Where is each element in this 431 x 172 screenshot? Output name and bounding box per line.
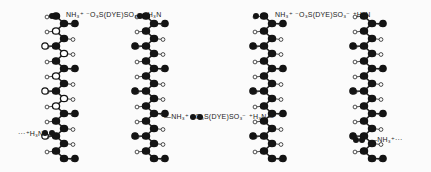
side-atom (280, 155, 286, 161)
side-atom (72, 20, 78, 26)
hydrogen-atom (45, 60, 49, 64)
backbone-atom (368, 65, 375, 71)
backbone-atom (360, 28, 367, 34)
hydrogen-atom (45, 75, 49, 79)
backbone-atom (368, 80, 375, 86)
backbone-atom (142, 28, 149, 34)
side-atom (280, 65, 286, 71)
backbone-atom (150, 95, 157, 101)
side-atom (72, 155, 78, 161)
side-atom (132, 133, 138, 139)
hydrogen-atom (279, 38, 283, 42)
oxygen-atom (42, 43, 48, 49)
backbone-atom (360, 103, 367, 109)
side-atom (162, 20, 168, 26)
polymer-dye-crosslink-diagram: NH₃⁺ ⁻O₃S(DYE)SO₃⁻ ⁺H₃N NH₃⁺ ⁻O₃S(DYE)SO… (0, 0, 431, 172)
backbone-atom (150, 125, 157, 131)
backbone-atom (368, 20, 375, 26)
hydrogen-atom (161, 143, 165, 147)
hydrogen-atom (253, 105, 257, 109)
hydrogen-atom (253, 30, 257, 34)
hydrogen-atom (379, 38, 383, 42)
side-atom (380, 20, 386, 26)
side-atom (380, 155, 386, 161)
backbone-atom (142, 73, 149, 79)
backbone-atom (60, 35, 67, 41)
backbone-atom (150, 50, 157, 56)
backbone-atom (60, 125, 67, 131)
hydrogen-atom (279, 98, 283, 102)
backbone-atom (268, 35, 275, 41)
backbone-atom (150, 110, 157, 116)
bridge-atom (253, 13, 259, 19)
hydrogen-atom (161, 83, 165, 87)
label-left-end: ···⁺H₃N— (18, 130, 51, 138)
hydrogen-atom (353, 150, 357, 154)
backbone-atom (60, 95, 67, 101)
backbone-atom (150, 20, 157, 26)
side-atom (250, 133, 256, 139)
backbone-atom (268, 140, 275, 146)
backbone-atom (260, 148, 267, 154)
backbone-atom (60, 50, 67, 56)
backbone-atom (150, 140, 157, 146)
backbone-atom (52, 58, 59, 64)
backbone-atom (142, 148, 149, 154)
hydrogen-atom (253, 150, 257, 154)
hydrogen-atom (161, 38, 165, 42)
side-atom (72, 110, 78, 116)
backbone-atom (268, 125, 275, 131)
backbone-atom (368, 155, 375, 161)
backbone-atom (268, 50, 275, 56)
backbone-atom (60, 80, 67, 86)
side-atom (280, 110, 286, 116)
backbone-atom (60, 20, 67, 26)
backbone-atom (360, 88, 367, 94)
hydrogen-atom (135, 150, 139, 154)
backbone-atom (52, 148, 59, 154)
hydrogen-atom (135, 120, 139, 124)
hydrogen-atom (379, 53, 383, 57)
hydrogen-atom (161, 53, 165, 57)
backbone-atom (52, 28, 59, 34)
polymer-chains (0, 0, 431, 172)
backbone-atom (368, 95, 375, 101)
side-atom (132, 88, 138, 94)
backbone-atom (150, 80, 157, 86)
backbone-atom (268, 95, 275, 101)
backbone-atom (360, 43, 367, 49)
side-atom (72, 65, 78, 71)
backbone-atom (260, 88, 267, 94)
backbone-atom (142, 133, 149, 139)
backbone-atom (142, 88, 149, 94)
backbone-atom (60, 140, 67, 146)
backbone-atom (142, 118, 149, 124)
backbone-atom (260, 73, 267, 79)
backbone-atom (268, 65, 275, 71)
hydrogen-atom (379, 98, 383, 102)
backbone-atom (260, 28, 267, 34)
backbone-atom (150, 35, 157, 41)
hydrogen-atom (161, 128, 165, 132)
hydrogen-atom (71, 83, 75, 87)
hydrogen-atom (45, 30, 49, 34)
bridge-atom (49, 13, 55, 19)
hydrogen-atom (71, 98, 75, 102)
backbone-atom (60, 155, 67, 161)
side-atom (380, 65, 386, 71)
backbone-atom (360, 58, 367, 64)
backbone-atom (360, 73, 367, 79)
backbone-atom (142, 103, 149, 109)
hydrogen-atom (135, 30, 139, 34)
hydrogen-atom (71, 143, 75, 147)
hydrogen-atom (45, 150, 49, 154)
backbone-atom (260, 103, 267, 109)
bridge-atom (353, 137, 359, 143)
hydrogen-atom (71, 128, 75, 132)
side-atom (250, 88, 256, 94)
backbone-atom (268, 155, 275, 161)
backbone-atom (368, 50, 375, 56)
backbone-atom (142, 58, 149, 64)
backbone-atom (268, 80, 275, 86)
hydrogen-atom (45, 105, 49, 109)
